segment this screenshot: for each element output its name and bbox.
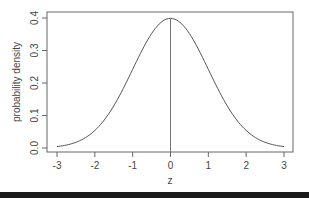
y-tick-label: 0.2	[29, 76, 40, 90]
y-tick-label: 0.1	[29, 108, 40, 122]
x-tick-label: 0	[168, 160, 174, 171]
y-axis: 0.00.10.20.30.4	[29, 11, 47, 155]
x-tick-label: 3	[281, 160, 287, 171]
x-axis-label: z	[168, 175, 173, 186]
x-tick-label: 2	[243, 160, 249, 171]
y-tick-label: 0.0	[29, 141, 40, 155]
x-tick-label: -3	[53, 160, 62, 171]
y-tick-label: 0.4	[29, 11, 40, 25]
x-tick-label: -2	[90, 160, 99, 171]
y-axis-label: probability density	[11, 42, 22, 122]
x-tick-label: 1	[206, 160, 212, 171]
x-axis: -3-2-10123	[53, 152, 288, 171]
y-tick-label: 0.3	[29, 43, 40, 57]
bottom-border	[0, 192, 309, 198]
density-chart: 0.00.10.20.30.4 -3-2-10123 probability d…	[0, 0, 309, 198]
x-tick-label: -1	[128, 160, 137, 171]
